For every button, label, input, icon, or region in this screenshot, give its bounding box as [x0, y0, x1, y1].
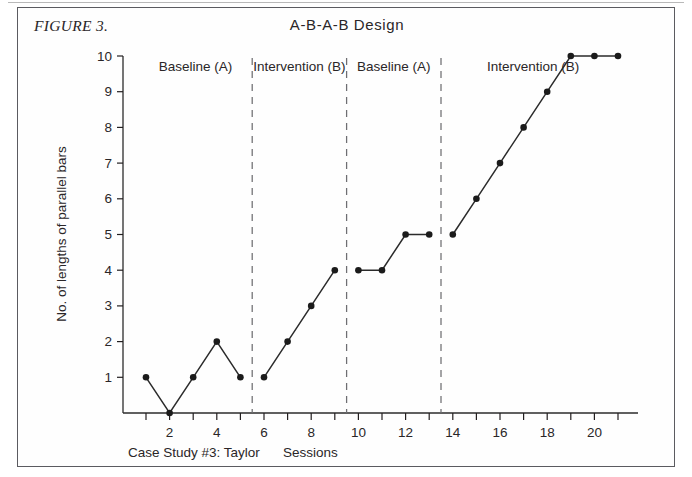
chart-axes [123, 56, 638, 413]
data-line [453, 56, 618, 235]
x-axis-tick-label: 20 [587, 425, 602, 440]
data-point [379, 267, 386, 274]
x-axis-ticks: 2468101214161820 [146, 413, 618, 440]
data-point [402, 231, 409, 238]
y-axis-tick-label: 10 [97, 49, 112, 64]
figure-frame: FIGURE 3. A-B-A-B Design 12345678910 246… [17, 7, 675, 467]
data-point [591, 53, 598, 60]
y-axis-tick-label: 4 [104, 263, 112, 278]
data-series [143, 53, 622, 417]
data-line [264, 270, 335, 377]
x-axis-tick-label: 16 [492, 425, 507, 440]
page-scan-artifact [8, 2, 684, 3]
x-axis-tick-label: 4 [213, 425, 221, 440]
phase-label: Intervention (B) [487, 59, 579, 74]
data-point [214, 338, 221, 345]
data-point [568, 53, 575, 60]
y-axis-tick-label: 6 [104, 191, 112, 206]
data-point [355, 267, 362, 274]
phase-label: Intervention (B) [253, 59, 345, 74]
data-line [358, 235, 429, 271]
data-point [166, 410, 173, 417]
x-axis-tick-label: 12 [398, 425, 413, 440]
y-axis-tick-label: 7 [104, 156, 112, 171]
figure-page: FIGURE 3. A-B-A-B Design 12345678910 246… [0, 0, 692, 477]
data-point [143, 374, 150, 381]
line-chart: 12345678910 2468101214161820 Baseline (A… [18, 8, 676, 468]
x-axis-tick-label: 6 [260, 425, 268, 440]
data-point [261, 374, 268, 381]
y-axis-title: No. of lengths of parallel bars [54, 146, 69, 322]
x-axis-tick-label: 10 [351, 425, 366, 440]
y-axis-tick-label: 2 [104, 334, 112, 349]
y-axis-tick-label: 5 [104, 227, 112, 242]
y-axis-tick-label: 1 [104, 370, 112, 385]
data-point [284, 338, 291, 345]
x-axis-tick-label: 18 [540, 425, 555, 440]
phase-label: Baseline (A) [357, 59, 431, 74]
data-point [520, 124, 527, 131]
x-axis-tick-label: 8 [307, 425, 315, 440]
data-point [497, 160, 504, 167]
data-point [332, 267, 339, 274]
data-point [308, 303, 315, 310]
data-point [450, 231, 457, 238]
x-axis-title: Sessions [283, 445, 338, 460]
y-axis-tick-label: 3 [104, 298, 112, 313]
y-axis-tick-label: 8 [104, 120, 112, 135]
data-point [473, 196, 480, 203]
phase-label: Baseline (A) [159, 59, 233, 74]
data-point [615, 53, 622, 60]
y-axis-tick-label: 9 [104, 84, 112, 99]
case-study-caption: Case Study #3: Taylor [128, 445, 260, 460]
phase-labels: Baseline (A)Intervention (B)Baseline (A)… [159, 59, 579, 74]
phase-divider-lines [252, 58, 441, 413]
x-axis-tick-label: 2 [166, 425, 174, 440]
x-axis-tick-label: 14 [445, 425, 461, 440]
data-point [426, 231, 433, 238]
data-point [237, 374, 244, 381]
y-axis-ticks: 12345678910 [97, 49, 123, 385]
data-point [190, 374, 197, 381]
data-point [544, 88, 551, 95]
